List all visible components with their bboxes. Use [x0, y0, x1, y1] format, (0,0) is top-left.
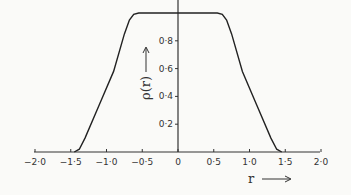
x-label-text: r [248, 171, 255, 186]
y-tick-label: 0·4 [159, 91, 174, 101]
x-tick-label: −0·5 [131, 157, 153, 167]
y-tick-label: 0·8 [159, 36, 174, 46]
x-tick-label: −1·5 [60, 157, 82, 167]
x-tick-label: −1·0 [96, 157, 118, 167]
x-tick-label: 2·0 [314, 157, 329, 167]
y-axis-label: ρ(r) [138, 47, 153, 100]
x-tick-label: 0 [175, 157, 181, 167]
x-tick-label: 1·0 [242, 157, 257, 167]
chart: −2·0−1·5−1·0−0·500·51·01·52·0 0·20·40·60… [0, 0, 351, 195]
y-tick-label: 0·2 [159, 119, 173, 129]
y-label-text: ρ(r) [138, 76, 153, 100]
x-tick-label: 1·5 [278, 157, 292, 167]
x-axis-label: r [248, 171, 291, 186]
x-tick-label: 0·5 [207, 157, 221, 167]
x-tick-label: −2·0 [24, 157, 46, 167]
y-tick-label: 0·6 [159, 64, 174, 74]
